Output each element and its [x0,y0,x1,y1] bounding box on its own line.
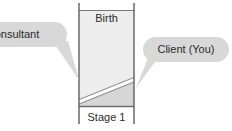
stage-label: Stage 1 [88,111,126,123]
diagram-canvas: Consultant Client (You) Birth Stage 1 [0,0,232,131]
birth-label: Birth [95,12,118,24]
callout-client[interactable]: Client (You) [136,37,229,88]
consultant-label: Consultant [0,28,39,40]
client-label: Client (You) [157,43,214,55]
stage-diagram-svg: Consultant Client (You) Birth Stage 1 [0,0,232,131]
callout-consultant[interactable]: Consultant [0,22,79,80]
